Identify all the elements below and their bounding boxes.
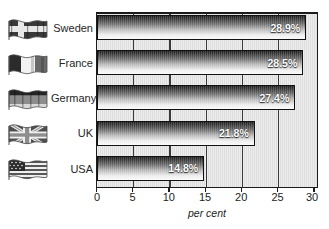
chart-container: Sweden France Germany UK USA 28.9% 28.5%… — [0, 0, 329, 229]
flag-sweden-icon — [2, 12, 54, 47]
flag-usa-icon — [2, 153, 54, 188]
category-label-germany: Germany — [51, 92, 93, 104]
x-tick-label-0: 0 — [94, 191, 100, 203]
x-tick-label-15: 15 — [199, 191, 211, 203]
bar-row-sweden: 28.9% — [97, 12, 317, 47]
bar-usa[interactable]: 14.8% — [97, 156, 204, 181]
x-tick-label-10: 10 — [163, 191, 175, 203]
category-label-france: France — [51, 57, 93, 69]
bar-row-france: 28.5% — [97, 47, 317, 82]
bar-germany[interactable]: 27.4% — [97, 85, 295, 110]
flag-uk-icon — [2, 118, 54, 153]
bar-value-germany: 27.4% — [260, 92, 290, 104]
category-label-uk: UK — [51, 127, 93, 139]
bar-row-uk: 21.8% — [97, 118, 317, 153]
bar-value-uk: 21.8% — [219, 127, 249, 139]
bar-value-sweden: 28.9% — [270, 22, 300, 34]
bar-value-france: 28.5% — [268, 57, 298, 69]
x-tick-label-30: 30 — [306, 191, 318, 203]
flag-column — [2, 12, 54, 188]
category-label-sweden: Sweden — [51, 22, 93, 34]
x-axis: 0 5 10 15 20 25 30 — [96, 188, 318, 204]
bar-uk[interactable]: 21.8% — [97, 121, 255, 146]
bar-sweden[interactable]: 28.9% — [97, 15, 306, 40]
bar-row-usa: 14.8% — [97, 153, 317, 188]
category-label-column: Sweden France Germany UK USA — [54, 12, 96, 188]
flag-france-icon — [2, 47, 54, 82]
x-tick-label-20: 20 — [235, 191, 247, 203]
bar-value-usa: 14.8% — [168, 162, 198, 174]
plot-area: 28.9% 28.5% 27.4% 21.8% 14.8% — [96, 12, 318, 188]
category-label-usa: USA — [51, 163, 93, 175]
x-tick-label-5: 5 — [129, 191, 135, 203]
bar-france[interactable]: 28.5% — [97, 50, 303, 75]
x-tick-label-25: 25 — [271, 191, 283, 203]
bar-row-germany: 27.4% — [97, 82, 317, 117]
flag-germany-icon — [2, 82, 54, 117]
x-axis-label: per cent — [96, 207, 318, 219]
chart-title — [0, 0, 329, 3]
